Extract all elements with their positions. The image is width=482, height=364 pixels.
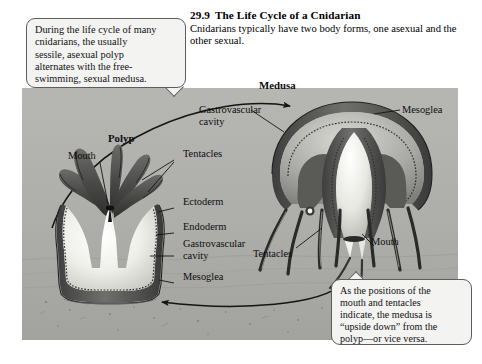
callout-top-line-3: sessile, asexual polyp [35, 49, 178, 61]
figure-subtitle-line-1: Cnidarians typically have two body forms… [190, 23, 389, 34]
callout-upside-down-orientation: As the positions of the mouth and tentac… [331, 279, 472, 345]
medusa-gastrovascular-label: Gastrovascular cavity [199, 104, 271, 127]
polyp-endoderm-label: Endoderm [183, 221, 226, 233]
callout-top-line-5: swimming, sexual medusa. [35, 73, 178, 85]
callout-bottom-line-2: mouth and tentacles [340, 297, 464, 309]
figure-page: 29.9The Life Cycle of a Cnidarian Cnidar… [0, 0, 482, 364]
figure-title-line: 29.9The Life Cycle of a Cnidarian [190, 9, 460, 22]
page-title: The Life Cycle of a Cnidarian [215, 9, 361, 21]
figure-number: 29.9 [190, 9, 210, 21]
polyp-tentacles-label: Tentacles [183, 148, 222, 160]
polyp-ectoderm-label: Ectoderm [183, 196, 223, 208]
medusa-heading-label: Medusa [259, 80, 296, 92]
callout-bottom-line-1: As the positions of the [340, 285, 464, 297]
callout-bottom-line-3: indicate, the medusa is [340, 309, 464, 321]
medusa-mouth-label: Mouth [371, 236, 399, 248]
polyp-mouth-label: Mouth [68, 150, 96, 162]
medusa-mesoglea-label: Mesoglea [402, 104, 442, 116]
callout-top-line-1: During the life cycle of many [35, 24, 178, 36]
figure-heading: 29.9The Life Cycle of a Cnidarian Cnidar… [190, 9, 460, 48]
polyp-mesoglea-label: Mesoglea [183, 271, 223, 283]
figure-subtitle: Cnidarians typically have two body forms… [190, 23, 460, 48]
callout-top-line-4: alternates with the free- [35, 61, 178, 73]
callout-polyp-medusa-alternation: During the life cycle of many cnidarians… [26, 18, 186, 88]
medusa-tentacles-label: Tentacles [253, 248, 292, 260]
polyp-heading-label: Polyp [108, 133, 134, 145]
callout-bottom-line-5: polyp—or vice versa. [340, 333, 464, 345]
callout-bottom-line-4: “upside down” from the [340, 321, 464, 333]
callout-top-line-2: cnidarians, the usually [35, 36, 178, 48]
